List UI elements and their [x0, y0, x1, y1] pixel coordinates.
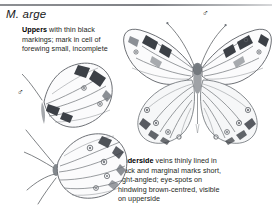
note-uppers-lead: Uppers: [22, 25, 47, 34]
butterfly-underside-spread-illustration: [122, 6, 272, 158]
note-uppers: Uppers with thin black markings; mark in…: [22, 25, 114, 54]
page-title: M. arge: [6, 8, 46, 20]
note-underside: Underside veins thinly lined in black an…: [118, 156, 226, 204]
field-guide-page: M. arge Uppers with thin black markings;…: [0, 0, 272, 217]
butterfly-underside-partial-illustration: [24, 112, 132, 208]
